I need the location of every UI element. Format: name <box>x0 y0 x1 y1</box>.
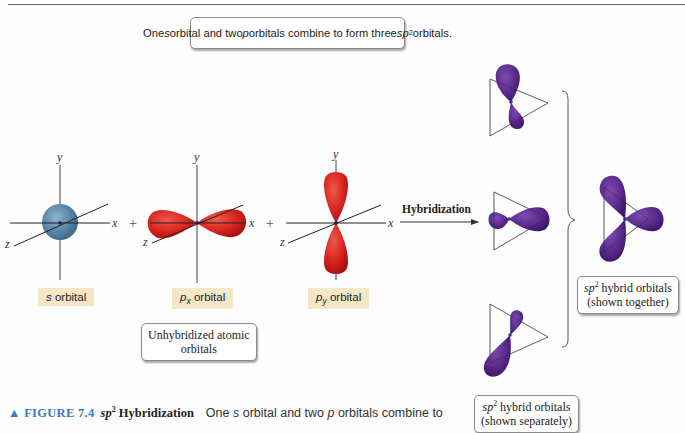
text: sp <box>483 400 494 414</box>
y-axis-label: y <box>56 150 63 164</box>
text: (shown separately) <box>481 414 572 428</box>
hybridization-label: Hybridization <box>402 203 471 215</box>
y-axis-label: y <box>193 150 200 164</box>
text: orbitals <box>148 342 250 356</box>
figure-title: sp2 Hybridization <box>101 406 194 420</box>
y-axis-label: y <box>332 147 339 161</box>
sp2-hybrid-orbital-top <box>490 64 548 136</box>
s-orbital-figure: y x z <box>4 150 118 280</box>
x-axis-label: x <box>248 216 255 230</box>
figure-marker-icon: ▲ <box>8 406 21 420</box>
unhybridized-orbitals-label: Unhybridized atomic orbitals <box>141 323 257 361</box>
text: orbital <box>52 291 87 303</box>
text: (shown together) <box>584 295 672 309</box>
x-axis-label: x <box>387 216 394 230</box>
plus-sign: + <box>129 216 137 231</box>
text: sp <box>584 281 595 295</box>
sp2-separately-label: sp2 hybrid orbitals (shown separately) <box>474 395 579 433</box>
px-orbital-figure: y x z <box>142 150 255 283</box>
text: orbital <box>327 291 362 303</box>
text: orbitals combine to <box>334 406 442 420</box>
text: Hybridization <box>116 406 194 420</box>
z-axis-label: z <box>279 235 285 249</box>
sp2-together-label: sp2 hybrid orbitals (shown together) <box>577 276 679 314</box>
text: orbital <box>191 291 226 303</box>
text: Unhybridized atomic <box>148 328 250 342</box>
sp2-hybrid-orbitals-combined <box>599 176 663 262</box>
sp2-hybrid-orbital-bottom <box>484 304 548 377</box>
text: One <box>206 406 233 420</box>
figure-caption: ▲ FIGURE 7.4sp2 HybridizationOne s orbit… <box>8 406 443 421</box>
py-orbital-label: py orbital <box>308 288 369 309</box>
x-axis-label: x <box>111 216 118 230</box>
grouping-brace <box>562 91 575 347</box>
plus-sign: + <box>266 216 274 231</box>
s-orbital-label: s orbital <box>38 288 94 306</box>
py-orbital-figure: y x z <box>279 147 394 280</box>
text: hybrid orbitals <box>599 281 672 295</box>
text: sp <box>101 406 112 420</box>
z-axis-label: z <box>142 235 148 249</box>
z-axis-label: z <box>4 237 10 251</box>
figure-number: FIGURE 7.4 <box>24 406 94 420</box>
px-orbital-label: px orbital <box>172 288 233 309</box>
text: orbital and two <box>239 406 327 420</box>
sp2-hybrid-orbital-middle <box>488 192 549 250</box>
text: hybrid orbitals <box>497 400 570 414</box>
caption-body: One s orbital and two p orbitals combine… <box>206 406 443 420</box>
